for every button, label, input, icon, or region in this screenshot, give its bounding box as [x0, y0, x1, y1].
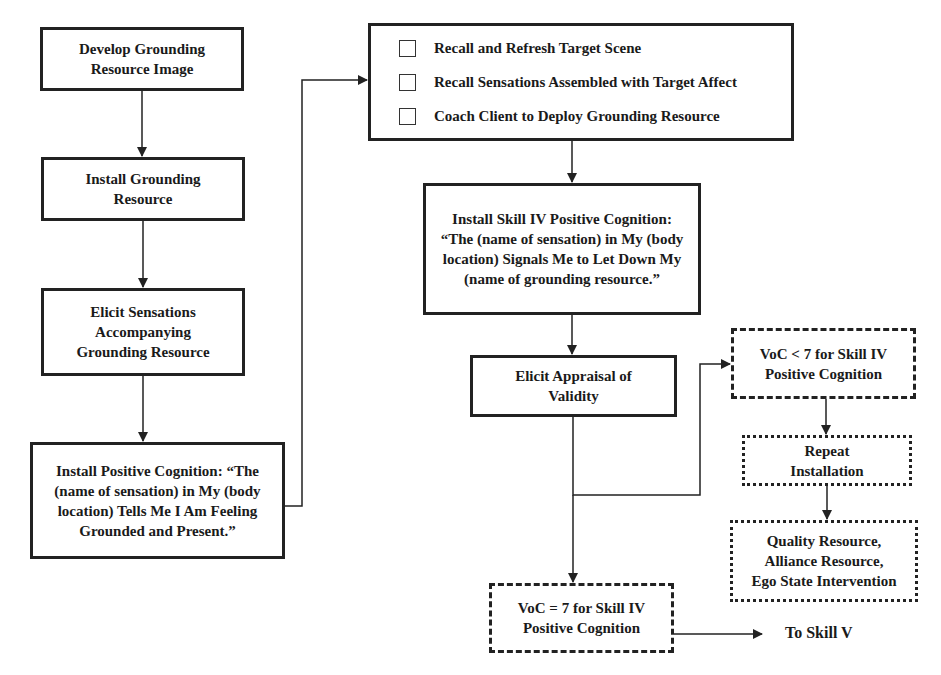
to-skill-v-label: To Skill V: [785, 624, 853, 642]
repeat-installation-box: Repeat Installation: [742, 435, 912, 486]
box-line: VoC = 7 for Skill IV: [518, 598, 645, 618]
box-line: Install Positive Cognition: “The: [56, 461, 259, 481]
quality-resource-box: Quality Resource, Alliance Resource, Ego…: [730, 520, 918, 602]
voc-less-than-7-box: VoC < 7 for Skill IV Positive Cognition: [731, 328, 916, 399]
checklist-box: Recall and Refresh Target Scene Recall S…: [368, 23, 794, 141]
elicit-appraisal-box: Elicit Appraisal of Validity: [470, 355, 677, 417]
box-line: VoC < 7 for Skill IV: [760, 344, 887, 364]
box-line: Grounding Resource: [76, 342, 209, 362]
install-skill-iv-box: Install Skill IV Positive Cognition: “Th…: [423, 183, 701, 315]
box-line: Quality Resource,: [767, 531, 882, 551]
box-line: Elicit Sensations: [90, 302, 195, 322]
box-line: Installation: [790, 461, 863, 481]
checklist-item: Recall and Refresh Target Scene: [399, 31, 641, 65]
box-line: Accompanying: [95, 322, 191, 342]
box-line: Install Skill IV Positive Cognition:: [452, 209, 672, 229]
box-line: (name of grounding resource.”: [464, 269, 660, 289]
checklist-item: Coach Client to Deploy Grounding Resourc…: [399, 99, 720, 133]
box-line: location) Signals Me to Let Down My: [443, 249, 681, 269]
checkbox-icon[interactable]: [399, 108, 416, 125]
box-line: Positive Cognition: [523, 618, 640, 638]
checklist-item-label: Coach Client to Deploy Grounding Resourc…: [434, 106, 720, 126]
box-line: Elicit Appraisal of: [515, 366, 632, 386]
install-grounding-resource-box: Install Grounding Resource: [41, 157, 245, 221]
box-line: location) Tells Me I Am Feeling: [58, 501, 258, 521]
box-line: Positive Cognition: [765, 364, 882, 384]
box-line: Install Grounding: [85, 169, 200, 189]
box-line: (name of sensation) in My (body: [54, 481, 260, 501]
box-line: Alliance Resource,: [765, 551, 884, 571]
box-line: Repeat: [805, 441, 850, 461]
box-line: Develop Grounding: [79, 39, 205, 59]
box-line: Ego State Intervention: [752, 571, 897, 591]
checklist-item: Recall Sensations Assembled with Target …: [399, 65, 737, 99]
box-line: Validity: [548, 386, 598, 406]
develop-grounding-resource-box: Develop Grounding Resource Image: [40, 27, 244, 91]
arrow-install-pc-to-checklist: [284, 80, 367, 506]
box-line: Resource: [114, 189, 173, 209]
box-line: Resource Image: [91, 59, 194, 79]
install-positive-cognition-box: Install Positive Cognition: “The (name o…: [30, 442, 285, 559]
checkbox-icon[interactable]: [399, 40, 416, 57]
voc-equal-7-box: VoC = 7 for Skill IV Positive Cognition: [489, 583, 674, 653]
box-line: Grounded and Present.”: [79, 521, 236, 541]
checkbox-icon[interactable]: [399, 74, 416, 91]
elicit-sensations-box: Elicit Sensations Accompanying Grounding…: [41, 288, 245, 376]
box-line: “The (name of sensation) in My (body: [441, 229, 684, 249]
checklist-item-label: Recall and Refresh Target Scene: [434, 38, 641, 58]
checklist-item-label: Recall Sensations Assembled with Target …: [434, 72, 737, 92]
